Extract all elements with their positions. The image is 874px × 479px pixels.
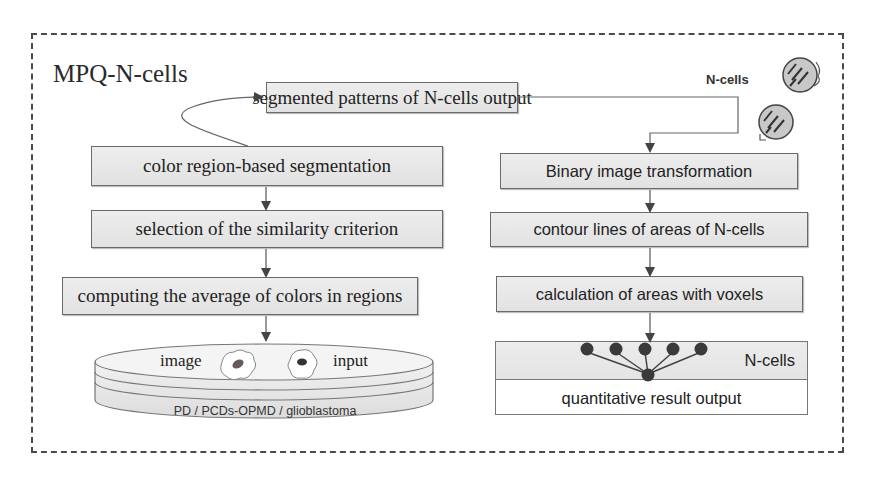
cell-image-icon-right [288,350,317,379]
ncells-tree-icon [581,343,708,382]
database-input-label: input [333,351,368,371]
database-caption: PD / PCDs-OPMD / glioblastoma [150,404,380,418]
feedback-arrow [182,97,262,146]
cell-image-icon-left [221,350,256,380]
ncells-icon-label: N-cells [706,72,749,87]
arrow-top-to-binary [518,97,738,151]
ncell-icon-large [783,58,820,92]
database-image-label: image [160,351,202,371]
ncell-icon-small [759,105,793,140]
